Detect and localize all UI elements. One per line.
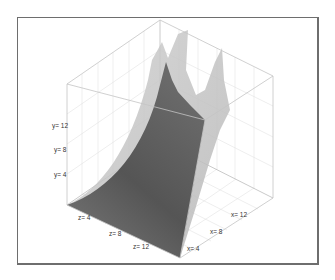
x-tick-12: x= 12: [231, 211, 247, 218]
y-axis-labels: y= 12 y= 8 y= 4: [52, 122, 68, 179]
x-axis-labels: x= 4 x= 8 x= 12: [187, 211, 247, 252]
z-tick-8: z= 8: [109, 230, 122, 237]
x-tick-8: x= 8: [210, 228, 223, 235]
x-tick-4: x= 4: [187, 245, 200, 252]
z-tick-12: z= 12: [133, 243, 149, 250]
surface-plot: y= 12 y= 8 y= 4 z= 4 z= 8 z= 12 x= 4 x= …: [0, 0, 335, 280]
y-tick-12: y= 12: [52, 122, 68, 130]
y-tick-4: y= 4: [54, 171, 67, 179]
z-tick-4: z= 4: [78, 214, 91, 221]
y-tick-8: y= 8: [54, 146, 67, 154]
